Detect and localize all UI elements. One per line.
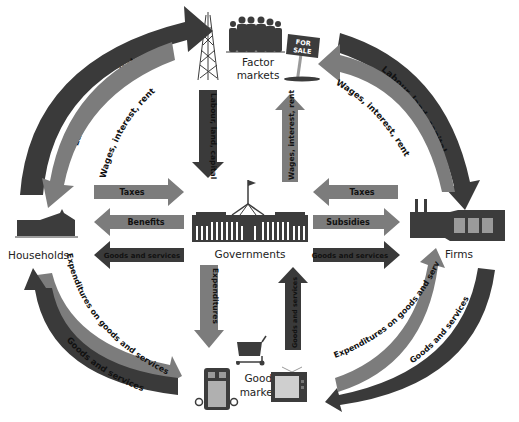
flow-label: Subsidies: [326, 218, 370, 227]
flow-label: Wages, interest, rent: [287, 90, 296, 180]
arrow-governments-to-goods-markets: Expenditures: [194, 265, 224, 348]
house-icon: [15, 209, 78, 237]
arrow-households-to-factor-markets: Labour, land, capital: [20, 6, 213, 195]
arrow-gov-goods-to-firms: Goods and services: [312, 241, 400, 269]
for-sale-sign-icon: FOR SALE: [284, 34, 320, 82]
flow-label: Benefits: [127, 218, 164, 227]
arrow-gov-goods-to-households: Goods and services: [94, 241, 184, 269]
flow-label: Goods and services: [291, 277, 299, 348]
arrow-subsidies-to-firms: Subsidies: [313, 208, 400, 236]
arrow-factor-markets-to-governments: Labour, land, capital: [192, 90, 224, 179]
factor-markets-label-line1: Factor: [242, 56, 275, 68]
arrow-benefits-to-households: Benefits: [94, 208, 184, 236]
parliament-house-icon: [192, 180, 308, 242]
flow-label: Goods and services: [104, 252, 181, 260]
factory-icon: [410, 199, 505, 241]
shopping-trolley-icon: [236, 336, 266, 366]
circular-flow-diagram: Labour, land, capital Wages, interest, r…: [0, 0, 519, 422]
flow-label: Taxes: [349, 188, 374, 197]
arrow-factor-markets-to-firms: Labour, land, capital: [337, 33, 480, 210]
television-icon: [271, 367, 307, 402]
flow-label: Expenditures: [211, 268, 220, 324]
factor-markets-label-line2: markets: [237, 69, 280, 81]
arrow-firms-taxes: Taxes: [313, 178, 398, 206]
households-label: Households: [8, 249, 69, 261]
flow-label: Labour, land, capital: [209, 93, 218, 179]
workers-group-icon: [226, 17, 285, 53]
arrow-households-taxes: Taxes: [94, 178, 184, 206]
arrow-goods-markets-to-governments: Goods and services: [278, 267, 308, 350]
arrow-governments-to-factor-markets: Wages, interest, rent: [275, 90, 305, 182]
flow-label: Goods and services: [312, 252, 389, 260]
governments-label: Governments: [215, 248, 286, 260]
fuel-pump-icon: [196, 368, 238, 410]
flow-label: Taxes: [119, 188, 144, 197]
firms-label: Firms: [445, 248, 473, 260]
